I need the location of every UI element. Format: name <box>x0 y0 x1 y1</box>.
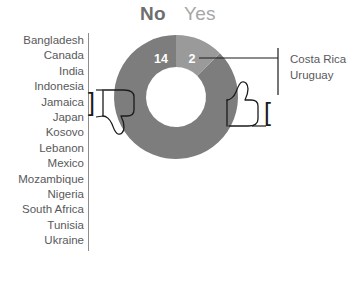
no-leader-line-bottom <box>96 116 103 117</box>
no-bracket: ] <box>88 88 95 116</box>
yes-bracket: [ <box>264 98 271 126</box>
chart-canvas: No Yes BangladeshCanadaIndiaIndonesiaJam… <box>0 0 356 282</box>
slice-value-yes: 2 <box>189 52 196 66</box>
chart-graphics: 14 2 ] [ <box>0 0 356 282</box>
slice-value-no: 14 <box>154 52 168 66</box>
